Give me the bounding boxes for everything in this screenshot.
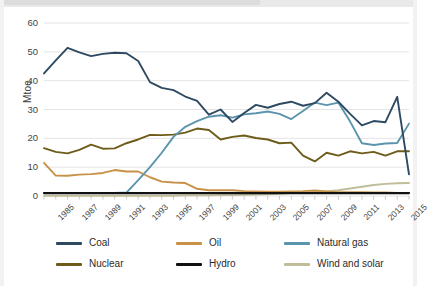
y-tick-label: 10 bbox=[16, 161, 38, 172]
legend-label: Natural gas bbox=[317, 238, 368, 248]
legend-swatch-icon bbox=[176, 263, 202, 266]
y-tick-label: 20 bbox=[16, 132, 38, 143]
legend-swatch-icon bbox=[56, 263, 82, 266]
y-tick-label: 40 bbox=[16, 75, 38, 86]
legend-label: Coal bbox=[89, 238, 110, 248]
chart-legend: CoalOilNatural gasNuclearHydroWind and s… bbox=[56, 238, 406, 282]
legend-swatch-icon bbox=[284, 242, 310, 245]
legend-item-oil[interactable]: Oil bbox=[176, 238, 221, 248]
y-tick-label: 60 bbox=[16, 17, 38, 28]
y-tick-label: 0 bbox=[16, 190, 38, 201]
y-tick-label: 50 bbox=[16, 46, 38, 57]
series-line-nuclear bbox=[44, 129, 409, 162]
y-tick-label: 30 bbox=[16, 104, 38, 115]
legend-item-nuclear[interactable]: Nuclear bbox=[56, 259, 123, 269]
legend-swatch-icon bbox=[176, 242, 202, 245]
legend-label: Oil bbox=[209, 238, 221, 248]
legend-label: Hydro bbox=[209, 259, 236, 269]
series-line-coal bbox=[44, 48, 409, 175]
legend-swatch-icon bbox=[56, 242, 82, 245]
legend-item-natural-gas[interactable]: Natural gas bbox=[284, 238, 368, 248]
legend-label: Nuclear bbox=[89, 259, 123, 269]
legend-label: Wind and solar bbox=[317, 259, 384, 269]
legend-item-wind-and-solar[interactable]: Wind and solar bbox=[284, 259, 384, 269]
legend-item-coal[interactable]: Coal bbox=[56, 238, 110, 248]
legend-item-hydro[interactable]: Hydro bbox=[176, 259, 236, 269]
legend-swatch-icon bbox=[284, 263, 310, 266]
